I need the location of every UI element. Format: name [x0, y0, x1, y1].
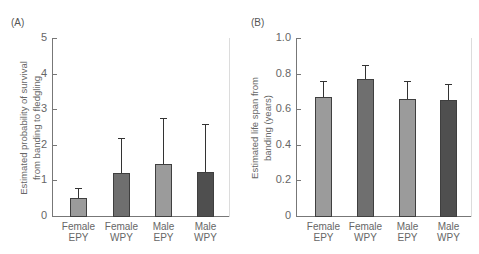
error-bar-b [407, 81, 408, 100]
error-cap-b [362, 65, 369, 66]
bar-b-male-epy [399, 99, 416, 217]
x-tick-label-b: MaleWPY [429, 221, 469, 243]
error-bar-b [448, 84, 449, 100]
y-tick-b [296, 74, 301, 75]
y-tick-label-b: 0.6 [267, 102, 291, 114]
y-tick-b [296, 109, 301, 110]
x-tick-label-b: MaleEPY [388, 221, 428, 243]
error-cap-b [320, 81, 327, 82]
y-axis-label-b-line1: Estimated life span from [248, 48, 261, 208]
panel-label-b: (B) [251, 17, 264, 28]
x-tick-label-b: FemaleEPY [304, 221, 344, 243]
y-tick-b [296, 216, 301, 217]
bar-b-female-epy [315, 97, 332, 217]
chart-panel-b: (B) Estimated life span from banding (ye… [0, 0, 479, 254]
y-axis-b [296, 38, 297, 217]
error-bar-b [365, 65, 366, 79]
y-tick-b [296, 38, 301, 39]
y-tick-b [296, 180, 301, 181]
bar-b-female-wpy [357, 79, 374, 217]
error-cap-b [445, 84, 452, 85]
y-tick-label-b: 0.2 [267, 173, 291, 185]
y-tick-label-b: 0.8 [267, 67, 291, 79]
y-tick-b [296, 145, 301, 146]
bar-b-male-wpy [440, 100, 457, 217]
plot-border-b [471, 38, 472, 217]
y-tick-label-b: 1.0 [267, 31, 291, 43]
y-tick-label-b: 0 [267, 209, 291, 221]
y-tick-label-b: 0.4 [267, 138, 291, 150]
error-cap-b [404, 81, 411, 82]
error-bar-b [323, 81, 324, 97]
x-tick-label-b: FemaleWPY [346, 221, 386, 243]
